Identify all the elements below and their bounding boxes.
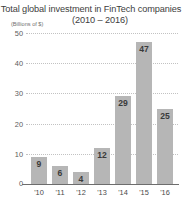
x-axis-line	[22, 184, 179, 185]
y-axis-unit-label: (Billions of $)	[11, 21, 43, 28]
bar-value-2014: 29	[115, 98, 131, 108]
page-title: Total global investment in FinTech compa…	[0, 0, 182, 15]
bar-2011[interactable]: 6	[52, 166, 68, 184]
bar-2015[interactable]: 47	[136, 42, 152, 184]
bar-2010[interactable]: 9	[31, 157, 47, 184]
bar-value-2013: 12	[94, 150, 110, 160]
bar-value-2012: 4	[73, 174, 89, 184]
bar-value-2015: 47	[136, 44, 152, 54]
plot-area: 50 40 30 20 10 0 9 6 4 12 29	[26, 33, 178, 184]
gridline-20: 20	[26, 124, 178, 125]
y-tick-label-40: 40	[15, 60, 23, 68]
bar-value-2016: 25	[157, 111, 173, 121]
bar-chart: Total global investment in FinTech compa…	[0, 0, 182, 209]
y-tick-label-10: 10	[15, 151, 23, 159]
y-tick-label-20: 20	[15, 121, 23, 129]
bar-2012[interactable]: 4	[73, 172, 89, 184]
bar-value-2011: 6	[52, 168, 68, 178]
gridline-30: 30	[26, 93, 178, 94]
gridline-50: 50	[26, 33, 178, 34]
gridline-40: 40	[26, 63, 178, 64]
x-tick-label-2016: '16	[152, 188, 178, 197]
bar-value-2010: 9	[31, 159, 47, 169]
bar-2014[interactable]: 29	[115, 96, 131, 184]
bar-2016[interactable]: 25	[157, 109, 173, 185]
y-tick-label-30: 30	[15, 90, 23, 98]
bar-2013[interactable]: 12	[94, 148, 110, 184]
y-tick-label-50: 50	[15, 30, 23, 38]
